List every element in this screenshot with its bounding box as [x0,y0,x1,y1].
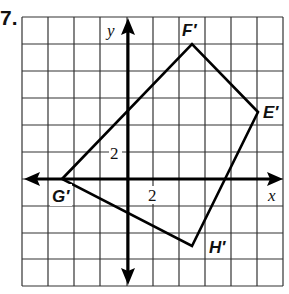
quadrilateral-efgh [62,44,258,246]
coordinate-diagram: 7. [0,0,289,294]
x-axis-label: x [267,186,276,205]
problem-number: 7. [0,6,18,30]
vertex-label-e: E′ [263,103,279,122]
grid-lines [22,17,283,286]
vertex-label-h: H′ [209,238,226,257]
coordinate-grid: y x 2 2 F′ E′ G′ H′ [0,0,289,294]
y-axis-label: y [105,21,115,40]
x-tick-label: 2 [148,186,157,205]
vertex-label-g: G′ [52,187,70,206]
y-tick-label: 2 [110,144,119,163]
vertex-label-f: F′ [182,21,197,40]
